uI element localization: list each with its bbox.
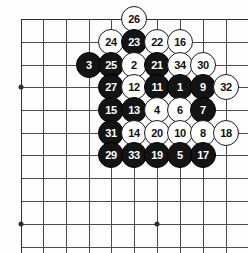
stone-move-number: 16	[174, 37, 186, 48]
star-point	[19, 222, 24, 227]
stone-move-number: 26	[128, 14, 140, 25]
grid-line-vertical	[43, 19, 44, 253]
grid-line-vertical	[21, 19, 22, 253]
star-point	[19, 85, 24, 90]
stone-move-number: 4	[154, 105, 160, 116]
stone-move-number: 9	[200, 82, 206, 93]
stone-move-number: 3	[86, 60, 92, 71]
stone-move-number: 27	[105, 82, 117, 93]
stone-move-number: 31	[105, 128, 117, 139]
stone-move-number: 25	[105, 60, 117, 71]
stone-move-number: 18	[220, 128, 232, 139]
stone-move-number: 33	[128, 150, 140, 161]
stone-move-number: 1	[177, 82, 183, 93]
stone-move-number: 19	[151, 150, 163, 161]
stone-move-number: 20	[151, 128, 163, 139]
stone-move-number: 6	[177, 105, 183, 116]
stone-move-number: 11	[151, 82, 162, 93]
stone-move-number: 32	[220, 82, 232, 93]
stone-move-number: 14	[128, 128, 140, 139]
stone-move-number: 7	[200, 105, 206, 116]
stone-move-number: 22	[151, 37, 163, 48]
stone-move-number: 29	[105, 150, 117, 161]
stone-move-number: 17	[197, 150, 209, 161]
stone-move-number: 5	[177, 150, 183, 161]
grid-line-vertical	[66, 19, 67, 253]
go-board-diagram: 2624232216325221343027121119321513467311…	[0, 0, 248, 253]
stone-move-number: 10	[174, 128, 186, 139]
stone-move-number: 13	[128, 105, 140, 116]
stone-black-17: 17	[190, 142, 216, 168]
stone-move-number: 24	[105, 37, 117, 48]
stone-move-number: 8	[200, 128, 206, 139]
stone-white-32: 32	[213, 74, 239, 100]
star-point	[155, 222, 160, 227]
stone-move-number: 34	[174, 60, 186, 71]
stone-white-18: 18	[213, 120, 239, 146]
stone-move-number: 2	[131, 60, 137, 71]
stone-move-number: 23	[128, 37, 140, 48]
stone-move-number: 15	[105, 105, 117, 116]
stone-move-number: 12	[128, 82, 140, 93]
stone-move-number: 21	[151, 60, 163, 71]
stone-move-number: 30	[197, 60, 209, 71]
